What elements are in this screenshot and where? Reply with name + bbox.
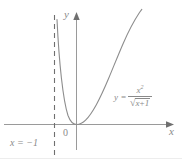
figure-container: y x 0 x = −1 y = x2 √ x+1 (0, 0, 182, 161)
curve-equation-label: y = x2 √ x+1 (114, 86, 152, 108)
y-axis-label: y (64, 9, 69, 20)
numerator-exponent: 2 (141, 84, 144, 90)
equation-lhs: y (114, 93, 118, 102)
radicand-constant: 1 (145, 98, 150, 108)
origin-label: 0 (63, 128, 68, 138)
asymptote-label: x = −1 (10, 138, 38, 148)
y-axis-arrowhead (73, 12, 79, 20)
radical-expression: √ x+1 (130, 98, 150, 108)
equation-denominator: √ x+1 (128, 97, 152, 108)
x-axis-label: x (169, 126, 174, 137)
y-axis (73, 12, 79, 150)
equation-numerator: x2 (133, 86, 148, 96)
radicand: x+1 (135, 98, 151, 108)
x-axis (4, 121, 174, 127)
equation-fraction: x2 √ x+1 (128, 86, 152, 108)
bottom-divider (0, 158, 182, 159)
equation-equals-sign: = (121, 93, 126, 102)
